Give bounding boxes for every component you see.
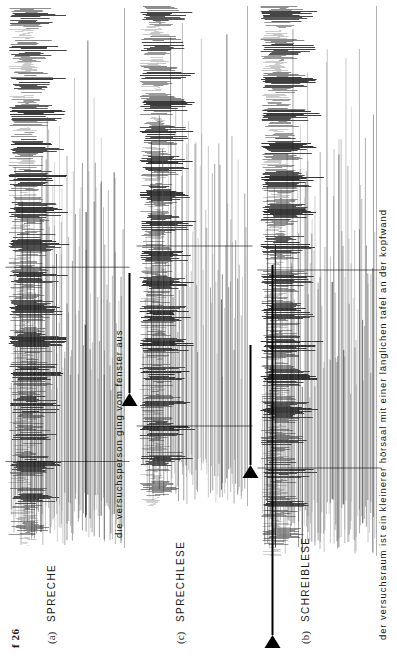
caption-a: die versuchsperson ging vom fenster aus [112, 330, 123, 538]
caption-b: der versuchsraum ist ein kleinerer hörsa… [376, 209, 387, 640]
trace-plot-spreche [4, 8, 130, 548]
panel-tag-c: (c) [173, 632, 185, 644]
marker-rule [271, 265, 273, 635]
panel-sprechе: (a) SPRECHE die versuchsperson ging vom … [0, 0, 132, 656]
panel-tag-a: (a) [44, 632, 56, 644]
panel-title-spreche: SPRECHE [45, 564, 56, 622]
panel-title-sprechlese: SPRECHLESE [174, 541, 185, 622]
marker-b [263, 258, 281, 648]
panel-sprechlese: (c) SPRECHLESE [133, 0, 255, 656]
right-triangle-icon [264, 635, 280, 648]
trace-svg-a [4, 8, 130, 548]
panel-tag-b: (b) [298, 631, 310, 644]
trace-plot-sprechlese [135, 6, 253, 506]
trace-svg-c [135, 6, 253, 506]
marker-rule [128, 273, 130, 393]
panel-schreiblese: (b) SCHREIBLESE der versuchsraum ist ein… [256, 0, 397, 656]
figure-page: f 26 (a) SPRECHE die versuchsperson ging… [0, 0, 397, 656]
marker-rule [249, 345, 251, 465]
